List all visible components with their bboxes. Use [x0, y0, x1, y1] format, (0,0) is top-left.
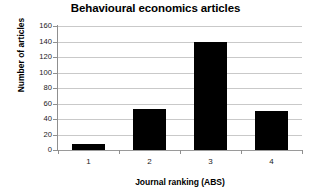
x-axis-tick-label: 2: [135, 157, 165, 166]
bar[interactable]: [72, 144, 105, 150]
y-axis-tick-label: 20: [26, 131, 52, 139]
x-axis-tick: [119, 150, 120, 154]
bar[interactable]: [194, 42, 227, 151]
bar[interactable]: [133, 109, 166, 150]
y-axis-tick: [53, 135, 58, 136]
bar[interactable]: [255, 111, 288, 150]
y-axis-tick-label: 60: [26, 100, 52, 108]
gridline: [58, 26, 302, 27]
y-axis-tick-label: 80: [26, 84, 52, 92]
y-axis-tick-label: 100: [26, 69, 52, 77]
x-axis-tick: [58, 150, 59, 154]
y-axis-tick-label: 120: [26, 53, 52, 61]
y-axis-tick: [53, 88, 58, 89]
x-axis-tick-label: 1: [74, 157, 104, 166]
gridline: [58, 42, 302, 43]
gridline: [58, 88, 302, 89]
y-axis-tick-label: 140: [26, 38, 52, 46]
x-axis-tick-label: 3: [196, 157, 226, 166]
y-axis-tick: [53, 150, 58, 151]
y-axis-tick: [53, 104, 58, 105]
plot-area: [58, 26, 302, 150]
y-axis-tick-labels: 020406080100120140160: [22, 0, 52, 194]
chart-figure: Behavioural economics articles Number of…: [0, 0, 311, 194]
y-axis-tick-label: 160: [26, 22, 52, 30]
x-axis-tick-label: 4: [257, 157, 287, 166]
y-axis-tick: [53, 26, 58, 27]
x-axis-title: Journal ranking (ABS): [58, 177, 302, 187]
gridline: [58, 57, 302, 58]
y-axis-tick-label: 40: [26, 115, 52, 123]
y-axis-tick: [53, 57, 58, 58]
x-axis-tick: [302, 150, 303, 154]
gridline: [58, 104, 302, 105]
y-axis-tick: [53, 42, 58, 43]
x-axis-tick: [180, 150, 181, 154]
y-axis-tick-label: 0: [26, 146, 52, 154]
gridline: [58, 73, 302, 74]
x-axis-tick: [241, 150, 242, 154]
y-axis-tick: [53, 119, 58, 120]
y-axis-tick: [53, 73, 58, 74]
